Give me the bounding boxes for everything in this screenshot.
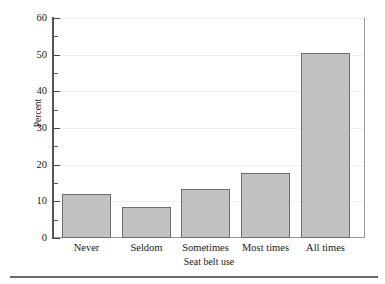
x-tick-label-all-times: All times [289, 241, 362, 254]
y-tick-label-10: 10 [7, 196, 47, 206]
y-tick-label-50: 50 [7, 50, 47, 60]
y-tick-minor-45 [54, 73, 58, 74]
y-tick-major-60 [54, 18, 60, 19]
y-tick-minor-55 [54, 36, 58, 37]
y-tick-minor-15 [54, 183, 58, 184]
y-tick-major-30 [54, 128, 60, 129]
y-tick-major-20 [54, 165, 60, 166]
y-tick-minor-25 [54, 146, 58, 147]
y-tick-label-60: 60 [7, 13, 47, 23]
bar-sometimes [181, 189, 230, 238]
y-tick-minor-5 [54, 220, 58, 221]
y-tick-major-10 [54, 201, 60, 202]
bar-all-times [301, 53, 350, 238]
x-axis-title: Seat belt use [53, 256, 365, 267]
gridline-60 [54, 18, 364, 19]
y-tick-label-20: 20 [7, 160, 47, 170]
y-tick-minor-35 [54, 110, 58, 111]
y-tick-major-40 [54, 91, 60, 92]
bar-seldom [122, 207, 171, 238]
y-axis-title: Percent [33, 83, 43, 143]
bar-chart-figure: 60 50 40 30 20 10 0 Percent Never Seldom… [0, 0, 385, 284]
bar-never [62, 194, 111, 238]
y-tick-label-0: 0 [7, 233, 47, 243]
y-tick-major-0 [54, 238, 60, 239]
y-tick-major-50 [54, 55, 60, 56]
figure-bottom-rule [10, 276, 378, 278]
bar-most-times [241, 173, 290, 238]
